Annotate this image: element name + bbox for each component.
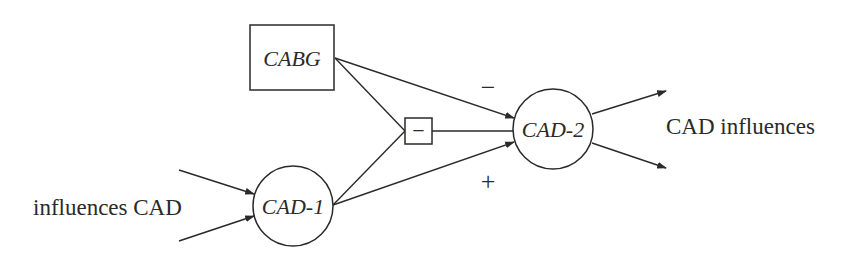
influence-diagram: CABG − CAD-1 CAD-2 − + influences CAD CA… (0, 0, 852, 259)
edge-cad2-out-lower (592, 143, 666, 168)
output-label: CAD influences (666, 114, 815, 139)
edge-cad1-to-minus-box (333, 131, 405, 205)
minus-box-label: − (412, 118, 424, 143)
cabg-label: CABG (263, 46, 321, 71)
edge-input-to-cad1-upper (179, 170, 254, 194)
positive-sign-label: + (481, 167, 496, 196)
edge-input-to-cad1-lower (179, 216, 254, 241)
edge-cabg-to-minus-box (335, 58, 405, 131)
node-cabg: CABG (250, 25, 334, 90)
edge-cad2-out-upper (592, 91, 666, 114)
input-label: influences CAD (33, 195, 182, 220)
node-cad2: CAD-2 (513, 89, 593, 169)
negative-sign-label: − (481, 73, 496, 102)
node-minus-operator: − (405, 118, 432, 144)
cad2-label: CAD-2 (522, 117, 584, 142)
cad1-label: CAD-1 (262, 194, 324, 219)
node-cad1: CAD-1 (253, 166, 333, 246)
